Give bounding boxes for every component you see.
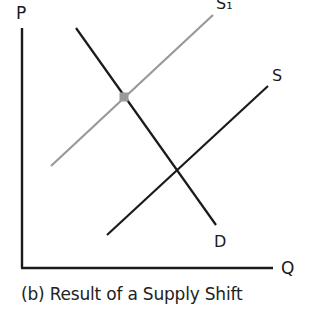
x-axis-label: Q (281, 258, 294, 278)
supply-curve (107, 86, 268, 235)
shifted-supply-curve (51, 15, 213, 166)
demand-curve (76, 28, 216, 225)
shifted-supply-label: S₁ (216, 0, 233, 13)
demand-label: D (214, 232, 226, 251)
equilibrium-point (120, 93, 129, 102)
figure-caption: (b) Result of a Supply Shift (21, 284, 242, 304)
supply-shift-diagram: P Q S₁ D S (0, 0, 315, 312)
y-axis-label: P (16, 3, 26, 23)
supply-label: S (272, 66, 282, 85)
